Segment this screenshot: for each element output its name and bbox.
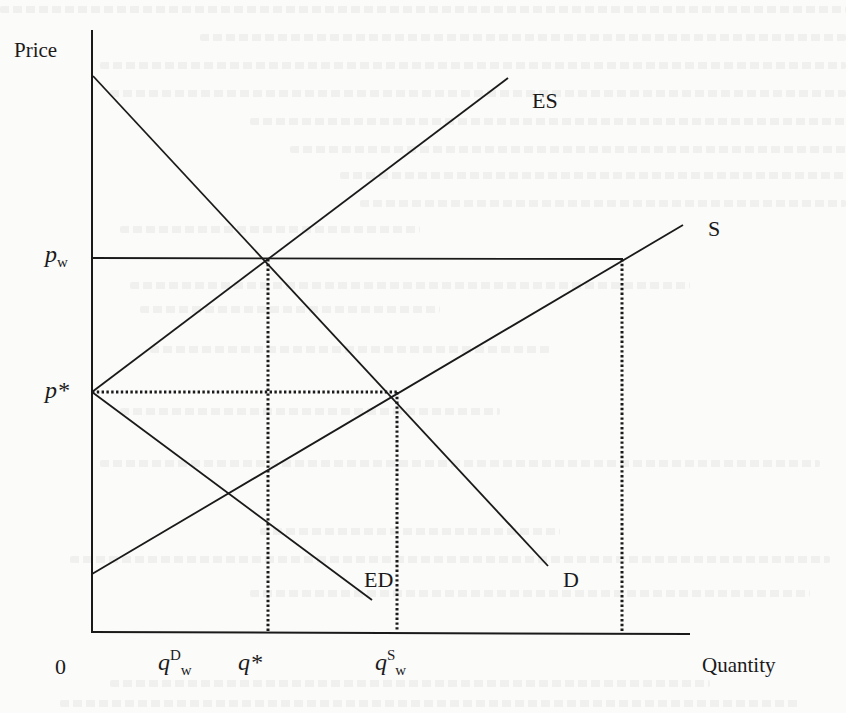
x-axis: [91, 632, 690, 634]
export-supply-curve: [92, 78, 508, 392]
supply-curve: [92, 225, 683, 574]
supply-label: S: [708, 218, 720, 240]
demand-curve: [93, 76, 548, 566]
excess-demand-curve: [92, 392, 372, 600]
p-star-label: p*: [45, 378, 69, 402]
excess-demand-label: ED: [364, 569, 393, 591]
q-supply-world-label: qSw: [375, 648, 406, 678]
demand-label: D: [563, 569, 579, 591]
y-axis-label: Price: [14, 40, 57, 61]
q-demand-world-label: qDw: [158, 648, 192, 678]
world-price-line: [92, 258, 623, 259]
q-star-label: q*: [238, 650, 262, 674]
p-world-label: pw: [45, 242, 68, 270]
export-supply-label: ES: [532, 90, 558, 112]
origin-label: 0: [55, 656, 66, 678]
x-axis-label: Quantity: [702, 655, 776, 676]
trade-diagram: [0, 0, 846, 713]
